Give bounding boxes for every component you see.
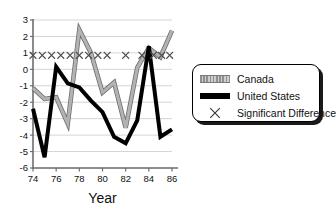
x-axis-tick-label: 82 <box>120 173 131 184</box>
significant-difference-marker <box>193 106 237 120</box>
legend-item-significant-difference: Significant Difference <box>193 105 319 121</box>
x-axis-title: Year <box>88 190 117 206</box>
y-axis-tick-label: 2 <box>23 31 28 42</box>
x-axis-tick-label: 84 <box>144 173 155 184</box>
x-axis-tick-label: 80 <box>97 173 108 184</box>
x-axis-tick-label: 76 <box>51 173 62 184</box>
x-axis-tick-label: 78 <box>74 173 85 184</box>
legend-item-canada: Canada <box>193 71 319 87</box>
x-marker-icon <box>208 106 222 120</box>
series-line-united-states <box>33 46 172 157</box>
y-axis-tick-label: -5 <box>20 146 28 157</box>
legend-item-united-states: United States <box>193 88 319 104</box>
y-axis-tick-label: -4 <box>20 130 28 141</box>
y-axis-tick-label: -2 <box>20 97 28 108</box>
plot-area-container: 3210-1-2-3-4-5-674767880828486Year <box>0 0 190 219</box>
line-chart-svg: 3210-1-2-3-4-5-674767880828486Year <box>0 0 190 219</box>
legend-label-united-states: United States <box>237 91 300 102</box>
y-axis-tick-label: 1 <box>23 47 28 58</box>
y-axis-tick-label: 3 <box>23 14 28 25</box>
canada-swatch <box>193 75 237 83</box>
x-axis-tick-label: 86 <box>167 173 178 184</box>
y-axis-tick-label: -1 <box>20 80 28 91</box>
legend-label-significant-difference: Significant Difference <box>237 108 336 119</box>
y-axis-tick-label: -3 <box>20 113 28 124</box>
y-axis-tick-label: -6 <box>20 162 28 173</box>
legend-label-canada: Canada <box>237 74 274 85</box>
united-states-swatch <box>193 93 237 99</box>
x-axis-tick-label: 74 <box>28 173 39 184</box>
chart-legend: Canada United States Significant Differe… <box>192 64 320 122</box>
y-axis-tick-label: 0 <box>23 64 28 75</box>
